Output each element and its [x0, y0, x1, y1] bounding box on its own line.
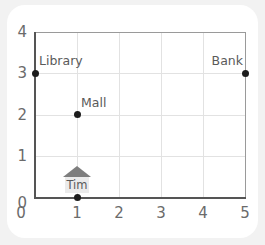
- point-label-library: Library: [39, 55, 83, 68]
- gridline-horizontal: [35, 115, 245, 116]
- house-roof-icon: [63, 166, 91, 177]
- x-tick-label: 3: [149, 206, 173, 221]
- coordinate-grid-chart: 012345 01234 LibraryBankMallTim: [0, 0, 265, 245]
- y-tick-label: 0: [7, 196, 27, 211]
- plot-frame-top: [35, 32, 245, 33]
- x-tick-label: 2: [107, 206, 131, 221]
- x-tick-label: 5: [233, 206, 257, 221]
- point-label-tim: Tim: [65, 177, 89, 193]
- y-tick-label: 4: [7, 25, 27, 40]
- gridline-horizontal: [35, 156, 245, 157]
- y-tick-label: 3: [7, 66, 27, 81]
- x-tick-label: 4: [191, 206, 215, 221]
- data-point-bank[interactable]: [242, 70, 249, 77]
- data-point-tim[interactable]: [74, 194, 81, 201]
- y-tick-label: 2: [7, 108, 27, 123]
- point-label-bank: Bank: [203, 55, 243, 68]
- plot-frame-right: [245, 32, 246, 197]
- data-point-mall[interactable]: [74, 111, 81, 118]
- x-tick-label: 1: [65, 206, 89, 221]
- x-axis-line: [34, 197, 246, 199]
- y-axis-line: [34, 32, 36, 198]
- y-tick-label: 1: [7, 149, 27, 164]
- data-point-library[interactable]: [32, 70, 39, 77]
- gridline-horizontal: [35, 73, 245, 74]
- house-icon-tim[interactable]: Tim: [63, 166, 91, 193]
- point-label-mall: Mall: [81, 97, 106, 110]
